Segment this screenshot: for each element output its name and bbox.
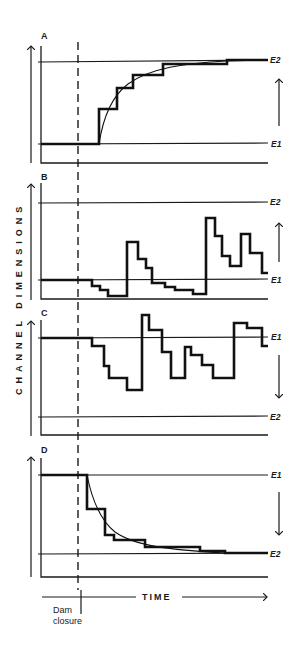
panel-d-stepped-response bbox=[41, 475, 268, 553]
panel-a-stepped-response bbox=[41, 60, 268, 144]
channel-adjustment-diagram: A E2 E1 B E2 E1 C E1 E2 D E1 bbox=[0, 0, 299, 653]
panel-a-frame bbox=[41, 46, 268, 163]
panel-d-label: D bbox=[41, 445, 48, 455]
panel-c: C E1 E2 bbox=[38, 308, 282, 435]
panel-d-e2-label: E2 bbox=[270, 549, 281, 559]
panel-b-e2-label: E2 bbox=[270, 197, 281, 207]
y-axis-title: CHANNEL DIMENSIONS bbox=[14, 202, 24, 395]
panel-a-e1-label: E1 bbox=[271, 139, 282, 149]
panel-a-label: A bbox=[41, 31, 48, 41]
panel-b-e1-label: E1 bbox=[271, 275, 282, 285]
panel-a-e2-label: E2 bbox=[270, 55, 281, 65]
dam-closure-label-line2: closure bbox=[53, 616, 82, 626]
panel-b-frame bbox=[41, 183, 268, 299]
panel-b-e2-line bbox=[38, 202, 268, 203]
panel-c-e2-line bbox=[38, 416, 268, 417]
panel-a-smooth-curve bbox=[99, 60, 268, 144]
panel-d-e1-label: E1 bbox=[271, 470, 282, 480]
dam-closure-label-line1: Dam bbox=[53, 605, 72, 615]
panel-c-stepped-response bbox=[41, 315, 268, 390]
time-axis-label: TIME bbox=[142, 592, 172, 602]
panel-b-stepped-response bbox=[41, 218, 268, 296]
panel-a: A E2 E1 bbox=[31, 31, 282, 163]
panel-c-e1-label: E1 bbox=[271, 332, 282, 342]
panel-b: B E2 E1 bbox=[38, 172, 282, 299]
panel-d: D E1 E2 bbox=[31, 445, 282, 577]
panel-b-label: B bbox=[41, 172, 48, 182]
panel-c-label: C bbox=[41, 308, 48, 318]
panel-c-e2-label: E2 bbox=[270, 412, 281, 422]
